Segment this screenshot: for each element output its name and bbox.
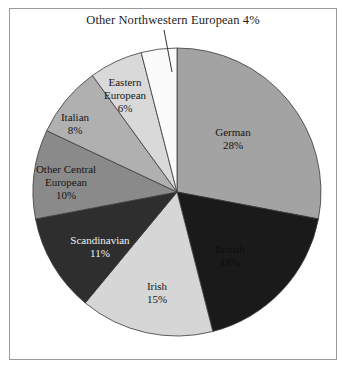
pie-slices xyxy=(33,48,321,336)
pie-chart-figure: Other Northwestern European 4% German 28… xyxy=(0,0,346,371)
pie-slice-german xyxy=(177,48,321,219)
pie-svg xyxy=(0,0,346,371)
pie-plot-area xyxy=(0,0,346,371)
